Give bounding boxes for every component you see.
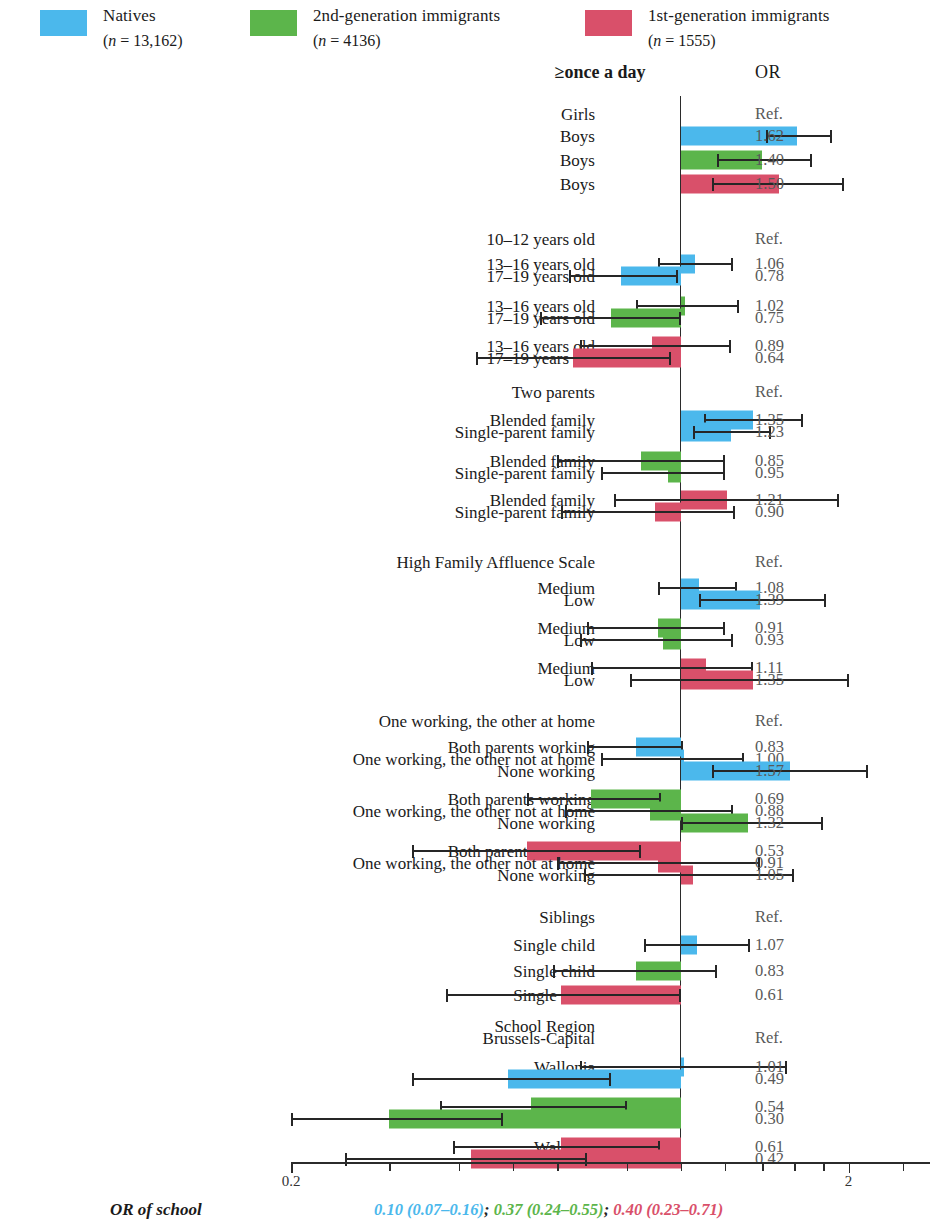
ci-line bbox=[601, 472, 725, 474]
row-label: Low bbox=[347, 592, 947, 609]
x-axis-line bbox=[291, 1162, 930, 1164]
ci-cap-left bbox=[584, 869, 586, 882]
axis-tick bbox=[762, 1164, 764, 1171]
ci-cap-left bbox=[580, 634, 582, 647]
ci-line bbox=[557, 460, 725, 462]
or-value: Ref. bbox=[755, 384, 783, 401]
ci-line bbox=[561, 511, 735, 513]
or-value: 0.95 bbox=[755, 465, 784, 482]
footer-separator: ; bbox=[484, 1200, 494, 1219]
ci-cap-left bbox=[569, 270, 571, 283]
row-label: Brussels-Capital bbox=[347, 1030, 947, 1047]
ci-cap-right bbox=[866, 765, 868, 778]
row-label: Girls bbox=[347, 106, 947, 123]
ci-cap-right bbox=[715, 965, 717, 978]
ci-line bbox=[476, 357, 670, 359]
ci-line bbox=[658, 587, 737, 589]
axis-tick bbox=[557, 1164, 559, 1171]
ci-cap-right bbox=[669, 352, 671, 365]
forest-plot-area: GirlsRef.Boys1.62Boys1.40Boys1.5010–12 y… bbox=[0, 96, 947, 1168]
or-value: 1.05 bbox=[755, 867, 784, 884]
or-value: 1.62 bbox=[755, 128, 784, 145]
ci-line bbox=[291, 1118, 503, 1120]
ci-cap-left bbox=[712, 178, 714, 191]
axis-tick bbox=[389, 1164, 391, 1171]
ci-cap-right bbox=[676, 270, 678, 283]
axis-tick-label: 0.2 bbox=[282, 1173, 301, 1190]
ci-line bbox=[587, 746, 683, 748]
outcome-title: ≥once a day bbox=[455, 62, 745, 83]
ci-line bbox=[636, 305, 739, 307]
ci-line bbox=[553, 970, 717, 972]
ci-line bbox=[453, 1146, 661, 1148]
axis-tick bbox=[725, 1164, 727, 1171]
axis-tick bbox=[794, 1164, 796, 1171]
ci-cap-left bbox=[540, 312, 542, 325]
ci-cap-left bbox=[601, 467, 603, 480]
legend-color-swatch bbox=[585, 10, 632, 36]
ci-cap-right bbox=[830, 130, 832, 143]
axis-tick bbox=[849, 1164, 851, 1173]
ci-line bbox=[681, 822, 823, 824]
or-value: 1.40 bbox=[755, 152, 784, 169]
ci-line bbox=[601, 758, 744, 760]
ci-cap-left bbox=[553, 965, 555, 978]
or-value: 0.78 bbox=[755, 268, 784, 285]
legend-color-swatch bbox=[40, 10, 87, 36]
ci-line bbox=[644, 944, 750, 946]
ci-cap-right bbox=[501, 1113, 503, 1126]
ci-cap-right bbox=[824, 594, 826, 607]
ci-cap-left bbox=[291, 1113, 293, 1126]
axis-tick-label: 2 bbox=[845, 1173, 853, 1190]
or-value: 1.23 bbox=[755, 424, 784, 441]
ci-line bbox=[412, 850, 641, 852]
ci-line bbox=[446, 994, 680, 996]
axis-tick bbox=[823, 1164, 825, 1171]
ci-line bbox=[658, 263, 733, 265]
ci-line bbox=[591, 667, 754, 669]
ci-line bbox=[345, 1158, 587, 1160]
ci-cap-left bbox=[681, 817, 683, 830]
or-value: Ref. bbox=[755, 909, 783, 926]
ci-line bbox=[565, 810, 733, 812]
ci-cap-left bbox=[561, 506, 563, 519]
ci-cap-left bbox=[644, 939, 646, 952]
ci-cap-right bbox=[842, 178, 844, 191]
footer-or-value: 0.37 (0.24–0.55) bbox=[494, 1200, 604, 1219]
ci-cap-right bbox=[847, 674, 849, 687]
axis-tick bbox=[459, 1164, 461, 1171]
ci-line bbox=[630, 679, 849, 681]
row-label: Siblings bbox=[347, 909, 947, 926]
or-value: 0.30 bbox=[755, 1111, 784, 1128]
or-value: 0.64 bbox=[755, 350, 784, 367]
footer-label: OR of school bbox=[110, 1200, 202, 1220]
footer-values: 0.10 (0.07–0.16); 0.37 (0.24–0.55); 0.40… bbox=[374, 1200, 723, 1220]
ci-cap-left bbox=[630, 674, 632, 687]
ci-line bbox=[712, 770, 868, 772]
or-value: 1.07 bbox=[755, 937, 784, 954]
or-value: 1.50 bbox=[755, 176, 784, 193]
footer-or-value: 0.40 (0.23–0.71) bbox=[613, 1200, 723, 1219]
or-value: 0.90 bbox=[755, 504, 784, 521]
or-value: Ref. bbox=[755, 231, 783, 248]
footer-separator: ; bbox=[604, 1200, 614, 1219]
ci-line bbox=[412, 1078, 611, 1080]
footer-or-value: 0.10 (0.07–0.16) bbox=[374, 1200, 484, 1219]
or-value: 1.32 bbox=[755, 815, 784, 832]
row-label: One working, the other at home bbox=[347, 713, 947, 730]
row-label: Boys bbox=[347, 176, 947, 193]
axis-tick bbox=[681, 1164, 683, 1171]
row-label: Boys bbox=[347, 128, 947, 145]
ci-cap-left bbox=[699, 594, 701, 607]
legend-color-swatch bbox=[250, 10, 297, 36]
row-label: 10–12 years old bbox=[347, 231, 947, 248]
or-value: 0.83 bbox=[755, 963, 784, 980]
ci-cap-left bbox=[717, 154, 719, 167]
legend: Natives(n = 13,162)2nd-generation immigr… bbox=[0, 0, 947, 58]
ci-cap-right bbox=[679, 312, 681, 325]
or-value: Ref. bbox=[755, 554, 783, 571]
x-axis: 0.22 bbox=[0, 1162, 947, 1196]
or-value: Ref. bbox=[755, 713, 783, 730]
or-value: 1.57 bbox=[755, 763, 784, 780]
ci-cap-right bbox=[821, 817, 823, 830]
